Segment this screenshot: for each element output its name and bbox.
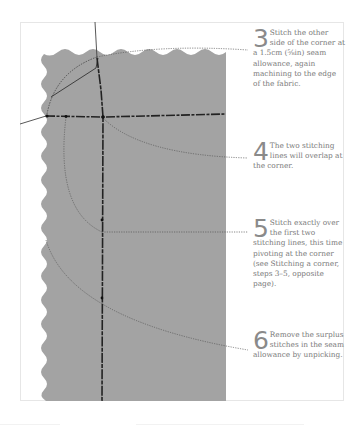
stitch-point	[101, 297, 104, 300]
step-5: 5 Stitch exactly over the first two stit…	[253, 218, 345, 289]
footer-rule-right	[136, 424, 304, 425]
footer-rule-left	[0, 424, 60, 425]
stitch-point	[65, 115, 68, 118]
corner-pivot-point	[101, 115, 105, 119]
step-4: 4 The two stitching lines will overlap a…	[253, 141, 345, 172]
step-6: 6 Remove the surplus stitches in the sea…	[253, 330, 345, 361]
pin-line-left	[20, 116, 46, 124]
step-number: 3	[253, 29, 269, 48]
stitch-point	[101, 219, 104, 222]
step-3: 3 Stitch the other side of the corner at…	[253, 28, 345, 89]
step-number: 6	[253, 331, 269, 350]
fabric-swatch	[41, 49, 226, 401]
step-number: 5	[253, 219, 269, 238]
step-number: 4	[253, 142, 269, 161]
stitch-point	[45, 114, 48, 117]
